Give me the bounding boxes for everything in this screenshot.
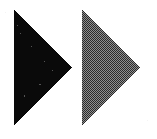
- figure-svg: [0, 0, 157, 139]
- figure-canvas: [0, 0, 157, 139]
